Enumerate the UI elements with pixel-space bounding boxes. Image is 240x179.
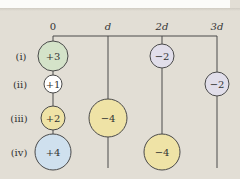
charge-value: +3 (46, 51, 61, 62)
axis-label-3d: 3d (211, 21, 224, 32)
charge-ii-3d: −2 (205, 72, 229, 96)
charge-ii-0: +1 (44, 75, 62, 93)
row-label-iii: (iii) (10, 113, 27, 124)
charge-iii-0: +2 (41, 106, 65, 130)
axis-label-2d: 2d (155, 21, 169, 32)
charge-value: +2 (46, 113, 61, 124)
row-label-i: (i) (15, 51, 26, 62)
row-label-ii: (ii) (13, 79, 27, 90)
charge-value: +1 (46, 79, 61, 90)
charge-value: −4 (101, 113, 116, 124)
charge-value: −4 (155, 147, 170, 158)
charge-value: −2 (155, 51, 170, 62)
axis-label-d: d (105, 21, 111, 32)
charge-value: +4 (46, 147, 61, 158)
charge-iv-2d: −4 (144, 134, 180, 170)
charge-i-2d: −2 (150, 44, 174, 68)
charge-position-diagram: 0 d 2d 3d (i) (ii) (iii) (iv) +3 −2 +1 −… (0, 0, 240, 179)
charge-iii-d: −4 (89, 99, 127, 137)
charge-value: −2 (210, 79, 225, 90)
axis-label-0: 0 (50, 21, 56, 32)
charge-iv-0: +4 (35, 134, 71, 170)
charge-i-0: +3 (38, 41, 68, 71)
row-label-iv: (iv) (11, 147, 28, 158)
